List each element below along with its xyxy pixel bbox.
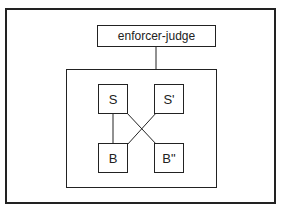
node-s: S [98, 84, 128, 114]
node-b-label: B [109, 151, 118, 166]
node-s-label: S [109, 92, 118, 107]
inner-lines [0, 0, 282, 209]
node-b-double-prime-label: B" [162, 151, 175, 166]
node-s-prime-label: S' [163, 92, 174, 107]
node-b-double-prime: B" [154, 143, 184, 173]
node-b: B [98, 143, 128, 173]
node-s-prime: S' [154, 84, 184, 114]
